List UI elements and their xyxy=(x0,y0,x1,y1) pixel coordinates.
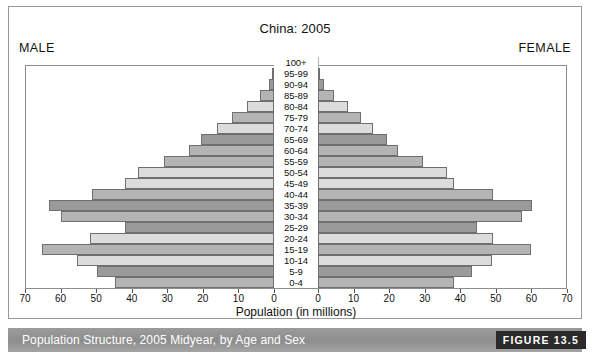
chart-card: China: 2005 MALE FEMALE 0-45-910-1415-19… xyxy=(8,6,582,319)
male-half xyxy=(26,211,274,222)
male-half xyxy=(26,57,274,68)
x-axis-tick-label: 0 xyxy=(271,293,277,304)
male-half xyxy=(26,156,274,167)
male-half xyxy=(26,233,274,244)
x-axis-tick-label: 40 xyxy=(455,293,466,304)
x-axis-tick-label: 40 xyxy=(126,293,137,304)
pyramid-row: 30-34 xyxy=(26,211,566,222)
male-bar xyxy=(115,277,274,288)
x-axis-tick-label: 60 xyxy=(526,293,537,304)
x-axis-tick-label: 70 xyxy=(19,293,30,304)
caption-text: Population Structure, 2005 Midyear, by A… xyxy=(22,333,305,347)
female-bar xyxy=(318,277,454,288)
male-half xyxy=(26,112,274,123)
male-half xyxy=(26,244,274,255)
age-group-label: 90-94 xyxy=(274,79,318,90)
pyramid-row: 50-54 xyxy=(26,167,566,178)
age-group-label: 100+ xyxy=(274,57,318,68)
x-axis-tick-label: 30 xyxy=(162,293,173,304)
female-bar xyxy=(318,167,447,178)
x-axis-tick-label: 10 xyxy=(348,293,359,304)
female-half xyxy=(318,200,566,211)
female-half xyxy=(318,101,566,112)
female-half xyxy=(318,255,566,266)
male-axis-label: MALE xyxy=(19,41,55,55)
age-group-label: 60-64 xyxy=(274,145,318,156)
female-half xyxy=(318,57,566,68)
male-half xyxy=(26,189,274,200)
female-bar xyxy=(318,101,348,112)
male-half xyxy=(26,167,274,178)
female-half xyxy=(318,277,566,288)
male-half xyxy=(26,266,274,277)
female-bar xyxy=(318,112,361,123)
male-half xyxy=(26,90,274,101)
pyramid-row: 10-14 xyxy=(26,255,566,266)
pyramid-row: 5-9 xyxy=(26,266,566,277)
male-bar xyxy=(90,233,274,244)
female-half xyxy=(318,167,566,178)
male-bar xyxy=(97,266,274,277)
male-half xyxy=(26,123,274,134)
male-half xyxy=(26,222,274,233)
male-half xyxy=(26,200,274,211)
male-half xyxy=(26,145,274,156)
male-half xyxy=(26,68,274,79)
age-group-label: 10-14 xyxy=(274,255,318,266)
x-axis-tick-label: 70 xyxy=(561,293,572,304)
age-group-label: 0-4 xyxy=(274,277,318,288)
x-axis-tick-label: 20 xyxy=(384,293,395,304)
pyramid-row: 65-69 xyxy=(26,134,566,145)
female-half xyxy=(318,189,566,200)
female-bar xyxy=(318,123,373,134)
female-half xyxy=(318,266,566,277)
female-half xyxy=(318,211,566,222)
age-group-label: 35-39 xyxy=(274,200,318,211)
female-bar xyxy=(318,134,387,145)
male-bar xyxy=(49,200,274,211)
male-bar xyxy=(260,90,274,101)
female-half xyxy=(318,178,566,189)
male-half xyxy=(26,277,274,288)
male-bar xyxy=(189,145,274,156)
female-bar xyxy=(318,255,492,266)
female-bar xyxy=(318,189,493,200)
x-axis-title: Population (in millions) xyxy=(9,305,583,319)
age-group-label: 20-24 xyxy=(274,233,318,244)
female-bar xyxy=(318,211,522,222)
age-group-label: 85-89 xyxy=(274,90,318,101)
pyramid-row: 90-94 xyxy=(26,79,566,90)
age-group-label: 45-49 xyxy=(274,178,318,189)
female-bar xyxy=(318,68,320,79)
age-group-label: 50-54 xyxy=(274,167,318,178)
female-bar xyxy=(318,266,472,277)
male-bar xyxy=(201,134,274,145)
male-half xyxy=(26,134,274,145)
pyramid-row: 60-64 xyxy=(26,145,566,156)
pyramid-row: 95-99 xyxy=(26,68,566,79)
age-group-label: 70-74 xyxy=(274,123,318,134)
age-group-label: 95-99 xyxy=(274,68,318,79)
age-group-label: 40-44 xyxy=(274,189,318,200)
pyramid-row: 75-79 xyxy=(26,112,566,123)
age-group-label: 65-69 xyxy=(274,134,318,145)
female-half xyxy=(318,233,566,244)
pyramid-row: 80-84 xyxy=(26,101,566,112)
male-half xyxy=(26,79,274,90)
pyramid-rows: 0-45-910-1415-1920-2425-2930-3435-3940-4… xyxy=(26,66,566,288)
pyramid-row: 70-74 xyxy=(26,123,566,134)
male-half xyxy=(26,255,274,266)
male-bar xyxy=(77,255,274,266)
male-bar xyxy=(217,123,274,134)
age-group-label: 55-59 xyxy=(274,156,318,167)
male-bar xyxy=(42,244,274,255)
female-half xyxy=(318,123,566,134)
female-half xyxy=(318,244,566,255)
female-axis-label: FEMALE xyxy=(519,41,571,55)
female-half xyxy=(318,156,566,167)
pyramid-row: 20-24 xyxy=(26,233,566,244)
pyramid-row: 0-4 xyxy=(26,277,566,288)
female-bar xyxy=(318,145,398,156)
figure-container: China: 2005 MALE FEMALE 0-45-910-1415-19… xyxy=(0,0,592,358)
male-bar xyxy=(125,222,274,233)
